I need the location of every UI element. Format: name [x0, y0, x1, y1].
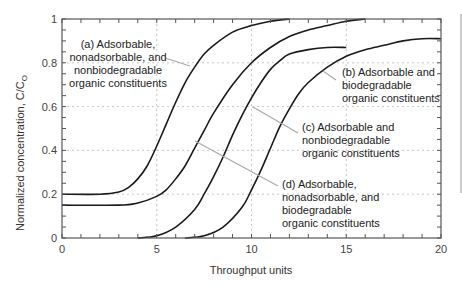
annotation-line: nonadsorbable, and: [69, 51, 166, 63]
x-tick-labels: 05101520: [59, 243, 447, 255]
annotation-line: organic constituents: [282, 217, 380, 229]
annotation-line: organic constituents: [342, 92, 440, 104]
y-tick-label: 0.6: [42, 101, 57, 113]
y-axis-title-main: Normalized concentration, C/C: [14, 81, 26, 231]
leader-line-a: [165, 58, 190, 66]
x-tick-label: 0: [59, 243, 65, 255]
annotation-line: (d) Adsorbable,: [282, 178, 357, 190]
annotation-line: organic constituents: [69, 77, 167, 89]
x-tick-label: 5: [154, 243, 160, 255]
annotation-line: (c) Adsorbable and: [302, 121, 394, 133]
x-tick-label: 10: [245, 243, 257, 255]
leader-line-d: [195, 141, 278, 186]
y-tick-label: 1: [51, 13, 57, 25]
annotation-line: biodegradable: [282, 204, 352, 216]
x-tick-label: 15: [340, 243, 352, 255]
annotation-line: nonadsorbable, and: [282, 191, 379, 203]
y-tick-label: 0.4: [42, 144, 57, 156]
y-tick-label: 0: [51, 232, 57, 244]
y-axis-title: Normalized concentration, C/CO: [14, 75, 29, 231]
annotation-line: (a) Adsorbable,: [81, 38, 156, 50]
y-tick-label: 0.2: [42, 188, 57, 200]
annotation-line: organic constituents: [302, 147, 400, 159]
annotation-series-a: (a) Adsorbable,nonadsorbable, andnonbiod…: [69, 38, 167, 89]
x-axis-title: Throughput units: [210, 264, 293, 276]
leader-line-b: [323, 71, 336, 80]
annotation-series-d: (d) Adsorbable,nonadsorbable, andbiodegr…: [282, 178, 380, 229]
x-tick-label: 20: [435, 243, 447, 255]
leader-line-c: [253, 107, 298, 133]
annotation-line: nonbiodegradable: [302, 134, 390, 146]
y-axis-title-subscript: O: [20, 75, 29, 81]
annotation-series-b: (b) Adsorbable andbiodegradableorganic c…: [342, 66, 440, 104]
annotation-line: (b) Adsorbable and: [342, 66, 435, 78]
annotation-series-c: (c) Adsorbable andnonbiodegradableorgani…: [302, 121, 400, 159]
breakthrough-curve-chart: 05101520 00.20.40.60.81 (a) Adsorbable,n…: [0, 0, 462, 292]
annotation-line: biodegradable: [342, 79, 412, 91]
y-tick-labels: 00.20.40.60.81: [42, 13, 57, 244]
series-annotations: (a) Adsorbable,nonadsorbable, andnonbiod…: [69, 38, 440, 229]
annotation-line: nonbiodegradable: [74, 64, 162, 76]
y-tick-label: 0.8: [42, 57, 57, 69]
